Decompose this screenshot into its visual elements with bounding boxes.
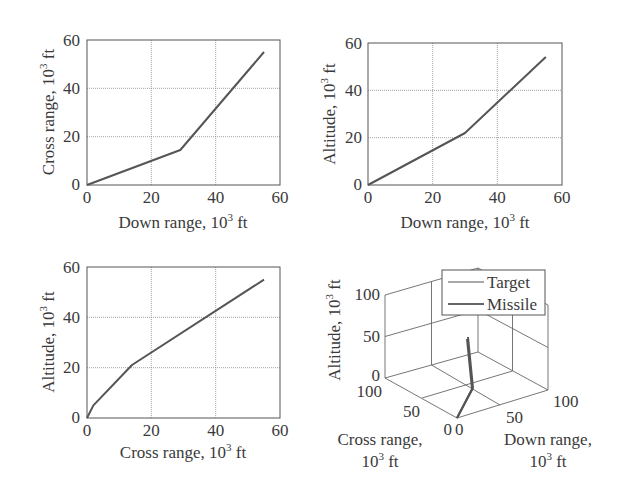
panel-altitude-vs-cross: 0 20 40 60 0 20 40 60 Cross range, 103 f…	[37, 258, 289, 462]
down-tick: 100	[553, 392, 579, 411]
gridline	[422, 371, 513, 398]
figure: 0 20 40 60 0 20 40 60 Down range, 103 ft…	[0, 0, 630, 489]
z-axis-label: Altitude, 103 ft	[323, 279, 344, 381]
y-axis-label: Altitude, 103 ft	[318, 63, 339, 165]
x-tick: 0	[364, 188, 373, 207]
trajectory-line	[87, 52, 264, 185]
down-axis-unit: 103 ft	[529, 450, 566, 471]
cross-axis-unit: 103 ft	[361, 450, 398, 471]
y-tick: 0	[354, 175, 363, 194]
y-tick: 60	[63, 258, 80, 277]
x-tick: 60	[272, 188, 289, 207]
panel-altitude-vs-down: 0 20 40 60 0 20 40 60 Down range, 103 ft…	[318, 34, 571, 232]
y-tick: 20	[63, 358, 80, 377]
plot-frame	[87, 40, 280, 185]
cross-axis-label: Cross range,	[338, 430, 423, 449]
plot-frame	[87, 267, 280, 418]
y-tick: 60	[345, 34, 362, 53]
x-axis-label: Cross range, 103 ft	[120, 441, 247, 462]
legend-missile-label: Missile	[487, 295, 537, 314]
z-tick: 50	[363, 327, 380, 346]
plot-frame	[368, 43, 562, 185]
gridline	[478, 310, 548, 348]
x-tick: 20	[143, 188, 160, 207]
y-tick: 20	[345, 128, 362, 147]
x-tick: 40	[207, 421, 224, 440]
x-tick: 0	[83, 188, 92, 207]
down-tick: 0	[455, 420, 464, 439]
cross-tick: 50	[403, 402, 420, 421]
x-tick: 20	[424, 188, 441, 207]
x-tick: 40	[489, 188, 506, 207]
z-tick: 100	[355, 285, 381, 304]
cross-tick: 100	[357, 382, 383, 401]
down-tick: 50	[506, 408, 523, 427]
x-tick: 40	[207, 188, 224, 207]
x-tick: 60	[554, 188, 571, 207]
x-tick: 0	[83, 421, 92, 440]
trajectory-line	[87, 280, 264, 418]
trajectory-line	[368, 57, 546, 185]
y-tick: 40	[63, 308, 80, 327]
legend: Target Missile	[442, 270, 545, 315]
y-tick: 40	[63, 79, 80, 98]
y-axis-label: Cross range, 103 ft	[37, 49, 58, 176]
x-axis-label: Down range, 103 ft	[400, 211, 529, 232]
cross-tick: 0	[444, 420, 453, 439]
panel-3d-trajectory: 100 50 0 100 50 0 0 50 100 Altitude, 103…	[323, 268, 592, 471]
y-tick: 0	[72, 408, 81, 427]
panel-cross-vs-down: 0 20 40 60 0 20 40 60 Down range, 103 ft…	[37, 31, 289, 232]
x-axis-label: Down range, 103 ft	[118, 211, 247, 232]
y-tick: 0	[72, 175, 81, 194]
y-tick: 40	[345, 81, 362, 100]
y-tick: 60	[63, 31, 80, 50]
x-tick: 20	[143, 421, 160, 440]
y-axis-label: Altitude, 103 ft	[37, 291, 58, 393]
down-axis-label: Down range,	[504, 430, 592, 449]
y-tick: 20	[63, 127, 80, 146]
legend-target-label: Target	[487, 273, 530, 292]
x-tick: 60	[272, 421, 289, 440]
